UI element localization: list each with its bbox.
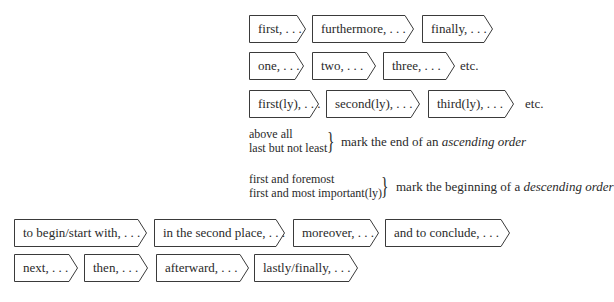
descending-phrase-1: first and foremost [249,172,334,186]
sequence-arrow-to-begin: to begin/start with, . . . [14,219,147,247]
note-emphasis: descending order [523,179,613,194]
descending-note: mark the beginning of a descending order [396,179,614,195]
sequence-arrow-thirdly: third(ly), . . . [428,90,514,118]
sequence-arrow-firstly: first(ly), . . . [249,90,319,118]
etc-label: etc. [460,58,478,74]
ascending-note: mark the end of an ascending order [341,134,526,150]
sequence-arrow-first: first, . . . [249,15,306,43]
arrow-label: in the second place, . . . [163,219,285,247]
arrow-label: next, . . . [23,254,68,282]
sequence-arrow-lastly: lastly/finally, . . . [254,254,358,282]
note-text: mark the beginning of a [396,179,523,194]
arrow-label: afterward, . . . [165,254,238,282]
sequence-arrow-two: two, . . . [312,52,376,80]
brace-icon: } [381,173,388,199]
arrow-label: one, . . . [258,52,300,80]
arrow-label: third(ly), . . . [437,90,503,118]
arrow-label: to begin/start with, . . . [23,219,140,247]
sequence-arrow-secondly: second(ly), . . . [326,90,420,118]
arrow-label: three, . . . [392,52,441,80]
arrow-label: first, . . . [258,15,302,43]
sequence-arrow-three: three, . . . [383,52,455,80]
arrow-label: furthermore, . . . [321,15,406,43]
arrow-label: two, . . . [321,52,363,80]
arrow-label: lastly/finally, . . . [263,254,351,282]
arrow-label: first(ly), . . . [258,90,320,118]
sequence-arrow-finally: finally, . . . [422,15,493,43]
note-emphasis: ascending order [442,134,526,149]
arrow-label: finally, . . . [431,15,487,43]
sequence-arrow-second-place: in the second place, . . . [154,219,285,247]
sequence-arrow-furthermore: furthermore, . . . [312,15,414,43]
arrow-label: then, . . . [93,254,138,282]
sequence-arrow-to-conclude: and to conclude, . . . [385,219,510,247]
etc-label: etc. [525,96,543,112]
sequence-arrow-one: one, . . . [249,52,304,80]
sequence-arrow-moreover: moreover, . . . [293,219,379,247]
sequence-arrow-afterward: afterward, . . . [156,254,249,282]
arrow-label: second(ly), . . . [335,90,413,118]
note-text: mark the end of an [341,134,442,149]
sequence-arrow-then: then, . . . [84,254,148,282]
arrow-label: moreover, . . . [302,219,374,247]
sequence-arrow-next: next, . . . [14,254,78,282]
ascending-phrase-2: last but not least [249,141,327,155]
descending-phrase-2: first and most important(ly) [249,186,382,200]
arrow-label: and to conclude, . . . [394,219,499,247]
brace-icon: } [327,128,334,154]
ascending-phrase-1: above all [249,127,293,141]
